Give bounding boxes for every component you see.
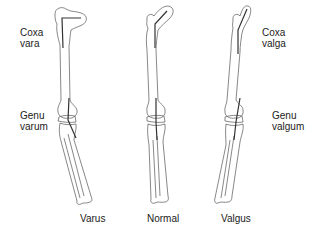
genu-valgum-label: Genu valgum [272,110,304,132]
coxa-valga-label: Coxa valga [262,27,286,49]
label-line: vara [20,38,43,49]
label-line: valgum [272,121,304,132]
label-line: Coxa [20,27,43,38]
normal-caption: Normal [147,213,179,224]
valgus-leg [215,6,251,203]
label-line: valga [262,38,286,49]
varus-caption: Varus [80,213,105,224]
label-line: Genu [272,110,304,121]
coxa-vara-label: Coxa vara [20,27,43,49]
varus-leg [55,8,92,205]
genu-varum-label: Genu varum [20,110,48,132]
label-line: Genu [20,110,48,121]
valgus-caption: Valgus [221,213,251,224]
label-line: Coxa [262,27,286,38]
normal-leg [146,6,173,203]
label-line: varum [20,121,48,132]
